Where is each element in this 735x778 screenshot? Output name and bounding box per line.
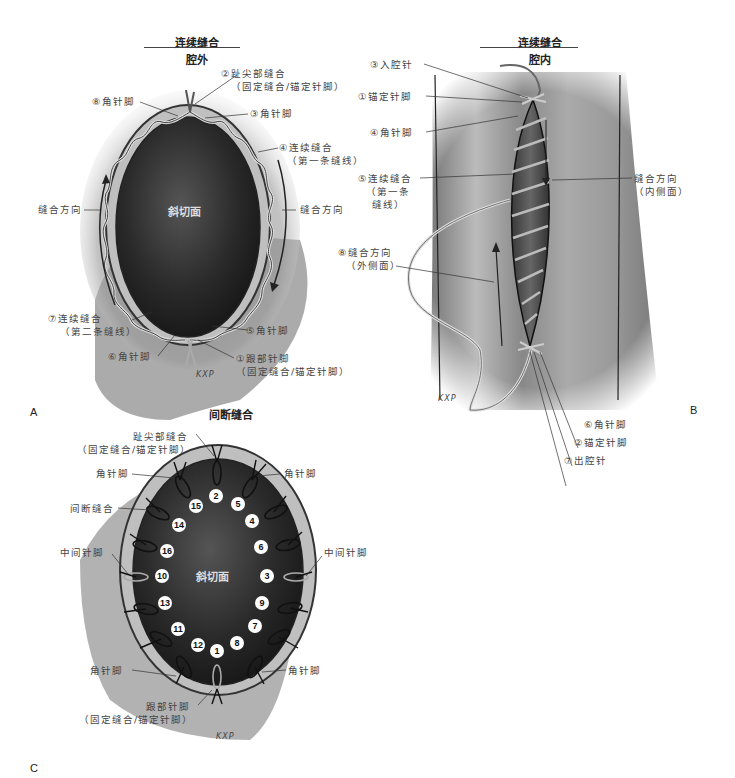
panel-c-label-corner-bottom-left: 角针脚 xyxy=(90,664,123,677)
panel-b-label-enter-lumen: ③入腔针 xyxy=(370,58,413,71)
panel-c-label-heel: 跟部针脚 （固定缝合/锚定针脚） xyxy=(76,700,196,726)
stitch-number: 11 xyxy=(171,622,185,636)
stitch-number: 9 xyxy=(255,596,269,610)
panel-c-signature: KXP xyxy=(216,730,235,743)
panel-a-label-continuous-second: ⑦连续缝合 （第二条缝线） xyxy=(48,312,137,338)
panel-b-artwork xyxy=(396,60,690,486)
panel-c-label-corner-top-left: 角针脚 xyxy=(96,467,129,480)
panel-a-label-continuous-first: ④连续缝合 （第一条缝线） xyxy=(279,141,364,167)
panel-a-title-rule xyxy=(144,47,240,48)
panel-b-label-corner-4: ④角针脚 xyxy=(370,126,413,139)
panel-b-label-direction-inner: 缝合方向 （内侧面） xyxy=(634,172,689,198)
panel-b-label-continuous: ⑤连续缝合 （第一条 缝线） xyxy=(358,172,412,211)
panel-b-label-direction-outer: ⑧缝合方向 （外侧面） xyxy=(338,246,401,272)
illustration-canvas xyxy=(0,0,735,778)
panel-c-label-toe: 趾尖部缝合 （固定缝合/锚定针脚） xyxy=(74,430,194,456)
stitch-number: 2 xyxy=(209,489,223,503)
panel-a-center-label: 斜切面 xyxy=(168,203,201,219)
panel-c-title: 间断缝合 xyxy=(196,406,266,422)
panel-a-label-corner-3: ③角针脚 xyxy=(250,107,293,120)
stitch-number: 12 xyxy=(191,638,205,652)
stitch-number: 6 xyxy=(254,540,268,554)
panel-b-subtitle: 腔内 xyxy=(503,51,577,67)
panel-c-label-corner-bottom-right: 角针脚 xyxy=(288,664,321,677)
stitch-number: 14 xyxy=(172,518,186,532)
panel-c-label-interrupted: 间断缝合 xyxy=(70,502,114,515)
panel-b-label-corner-6: ⑥角针脚 xyxy=(584,418,627,431)
panel-c-letter: C xyxy=(30,762,38,774)
panel-c-label-corner-top-right: 角针脚 xyxy=(284,467,317,480)
panel-a-label-direction-left: 缝合方向 xyxy=(38,203,82,216)
stitch-number: 4 xyxy=(245,514,259,528)
stitch-number: 8 xyxy=(230,636,244,650)
stitch-number: 7 xyxy=(248,619,262,633)
panel-a-label-corner-5: ⑤角针脚 xyxy=(246,324,289,337)
panel-b-label-anchor-1: ①锚定针脚 xyxy=(358,90,412,103)
panel-a-label-corner-8: ⑧角针脚 xyxy=(92,95,135,108)
panel-a-label-direction-right: 缝合方向 xyxy=(300,203,344,216)
stitch-number: 10 xyxy=(155,569,169,583)
stitch-number: 13 xyxy=(158,596,172,610)
stitch-number: 5 xyxy=(231,497,245,511)
panel-a-label-toe-suture: ②趾尖部缝合 （固定缝合/锚定针脚） xyxy=(221,67,345,93)
stitch-number: 16 xyxy=(160,544,174,558)
panel-c-label-middle-right: 中间针脚 xyxy=(324,546,368,559)
stitch-number: 15 xyxy=(189,499,203,513)
panel-a-letter: A xyxy=(30,406,37,418)
panel-b-signature: KXP xyxy=(438,392,457,405)
panel-b-label-exit-lumen: ⑦出腔针 xyxy=(564,454,607,467)
panel-b-letter: B xyxy=(690,404,697,416)
panel-c-center-label: 斜切面 xyxy=(196,568,229,584)
stitch-number: 3 xyxy=(260,569,274,583)
panel-c-label-middle-left: 中间针脚 xyxy=(60,546,104,559)
panel-b-title-rule xyxy=(480,47,578,48)
stitch-number: 1 xyxy=(210,644,224,658)
panel-a-signature: KXP xyxy=(196,368,215,381)
panel-a-subtitle: 腔外 xyxy=(160,51,234,67)
panel-a-label-corner-6: ⑥角针脚 xyxy=(108,350,151,363)
panel-b-label-anchor-2: ②锚定针脚 xyxy=(574,436,628,449)
panel-a-label-heel: ①跟部针脚 （固定缝合/锚定针脚） xyxy=(236,352,350,378)
